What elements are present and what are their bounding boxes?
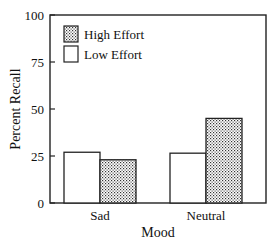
x-tick-label: Neutral: [187, 208, 226, 223]
bar-chart: 0255075100SadNeutralHigh EffortLow Effor…: [0, 0, 276, 248]
plot-area: 0255075100SadNeutralHigh EffortLow Effor…: [25, 8, 267, 223]
legend-label: Low Effort: [84, 47, 142, 62]
legend-swatch-high-effort: [64, 26, 78, 42]
y-axis-label: Percent Recall: [8, 68, 23, 149]
bar-low-effort-neutral: [170, 153, 206, 203]
y-tick-label: 25: [31, 149, 44, 164]
bar-low-effort-sad: [64, 152, 100, 203]
y-tick-label: 100: [25, 8, 45, 23]
y-tick-label: 75: [31, 55, 44, 70]
y-tick-label: 0: [38, 196, 45, 211]
bar-high-effort-neutral: [206, 118, 242, 203]
legend-label: High Effort: [84, 27, 144, 42]
legend-swatch-low-effort: [64, 46, 78, 62]
y-tick-label: 50: [31, 102, 44, 117]
x-axis-label: Mood: [141, 225, 174, 240]
x-tick-label: Sad: [90, 208, 110, 223]
bar-high-effort-sad: [100, 160, 136, 203]
